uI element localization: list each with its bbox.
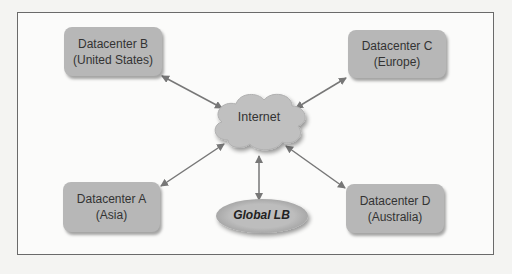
datacenter-b-name: Datacenter B [78, 36, 148, 52]
edge-a-internet [161, 144, 224, 186]
datacenter-d-region: (Australia) [368, 209, 423, 225]
datacenter-c-node: Datacenter C (Europe) [348, 30, 446, 78]
datacenter-d-name: Datacenter D [360, 193, 431, 209]
internet-label: Internet [213, 110, 305, 124]
datacenter-a-name: Datacenter A [77, 191, 146, 207]
datacenter-b-node: Datacenter B (United States) [64, 27, 162, 76]
global-lb-label: Global LB [216, 208, 307, 222]
edge-d-internet [286, 146, 345, 188]
datacenter-d-node: Datacenter D (Australia) [346, 184, 444, 233]
edge-b-internet [162, 76, 222, 108]
datacenter-a-node: Datacenter A (Asia) [63, 182, 160, 232]
datacenter-c-name: Datacenter C [362, 38, 433, 54]
datacenter-c-region: (Europe) [374, 54, 421, 70]
datacenter-a-region: (Asia) [96, 207, 127, 223]
edge-c-internet [296, 78, 346, 108]
datacenter-b-region: (United States) [73, 52, 153, 68]
